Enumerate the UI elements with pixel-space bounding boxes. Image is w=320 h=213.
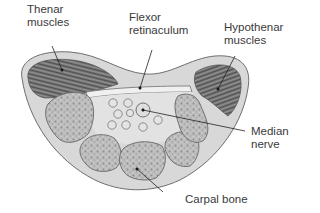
label-hypothenar-muscles: Hypothenar muscles xyxy=(224,21,283,47)
label-thenar-muscles: Thenar muscles xyxy=(27,3,69,29)
label-carpal-bone: Carpal bone xyxy=(185,193,248,206)
label-median-nerve: Median nerve xyxy=(251,125,289,151)
label-flexor-retinaculum: Flexor retinaculum xyxy=(129,11,188,37)
